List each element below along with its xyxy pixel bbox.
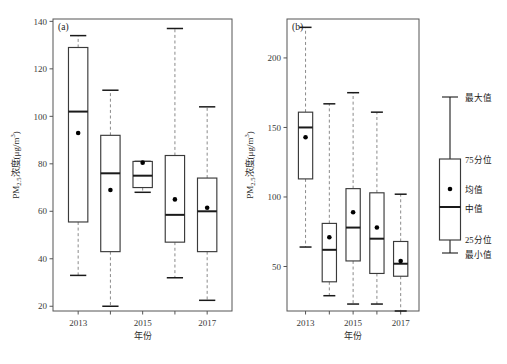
boxplot-figure: (a)20406080100120140201320152017年份PM2.5浓…: [0, 0, 507, 364]
mean-marker: [303, 135, 308, 140]
legend-label-max: 最大值: [465, 92, 492, 103]
mean-marker: [327, 235, 332, 240]
y-tick-label: 100: [34, 112, 48, 122]
y-tick-label: 40: [38, 254, 48, 264]
mean-marker: [140, 160, 145, 165]
boxplot-2013: [68, 36, 87, 276]
legend-box-iqr: [440, 159, 461, 240]
mean-marker: [398, 259, 403, 264]
panel-a: (a)20406080100120140201320152017年份PM2.5浓…: [9, 17, 232, 341]
boxplot-2015: [346, 93, 360, 304]
mean-marker: [108, 188, 113, 193]
x-axis-label: 年份: [134, 330, 152, 341]
mean-marker: [173, 197, 178, 202]
x-tick-label: 2013: [297, 318, 316, 328]
box-iqr: [133, 161, 152, 187]
boxplot-2016: [165, 28, 184, 277]
legend-label-q1: 25分位: [465, 234, 492, 245]
legend-label-mean: 均值: [465, 184, 483, 195]
boxplot-2014: [322, 104, 336, 296]
x-axis-label: 年份: [344, 330, 362, 341]
box-iqr: [298, 112, 312, 179]
y-tick-label: 120: [34, 64, 48, 74]
box-iqr: [322, 223, 336, 281]
legend-mean-marker: [448, 187, 453, 192]
y-tick-label: 50: [272, 262, 282, 272]
y-axis-label: PM2.5浓度(μg/m3): [9, 131, 22, 198]
y-tick-label: 100: [268, 192, 282, 202]
y-tick-label: 200: [268, 53, 282, 63]
y-tick-label: 150: [268, 123, 282, 133]
x-tick-label: 2015: [134, 318, 153, 328]
y-tick-label: 20: [38, 301, 48, 311]
panel-label: (a): [58, 22, 69, 33]
legend-label-q3: 75分位: [465, 154, 492, 165]
boxplot-2017: [394, 194, 408, 311]
boxplot-2016: [370, 112, 384, 304]
x-tick-label: 2017: [392, 318, 411, 328]
boxplot-2017: [197, 107, 216, 300]
boxplot-legend: 最大值75分位均值中值25分位最小值: [440, 92, 493, 260]
boxplot-2015: [133, 160, 152, 192]
boxplot-2013: [298, 27, 312, 247]
y-axis-label: PM2.5浓度(μg/m3): [243, 131, 256, 198]
legend-label-min: 最小值: [465, 249, 492, 260]
box-iqr: [370, 193, 384, 274]
mean-marker: [351, 210, 356, 215]
box-iqr: [101, 135, 120, 251]
mean-marker: [76, 131, 81, 136]
legend-label-median: 中值: [465, 203, 483, 214]
x-tick-label: 2015: [344, 318, 363, 328]
x-tick-label: 2013: [69, 318, 88, 328]
y-tick-label: 60: [38, 206, 48, 216]
mean-marker: [205, 205, 210, 210]
x-tick-label: 2017: [198, 318, 217, 328]
mean-marker: [375, 225, 380, 230]
panel-b: (b)50100150200201320152017年份PM2.5浓度(μg/m…: [243, 19, 419, 341]
y-tick-label: 80: [38, 159, 48, 169]
box-iqr: [197, 178, 216, 252]
boxplot-2014: [101, 90, 120, 306]
figure-canvas: (a)20406080100120140201320152017年份PM2.5浓…: [0, 0, 507, 364]
box-iqr: [346, 189, 360, 261]
y-tick-label: 140: [34, 17, 48, 27]
